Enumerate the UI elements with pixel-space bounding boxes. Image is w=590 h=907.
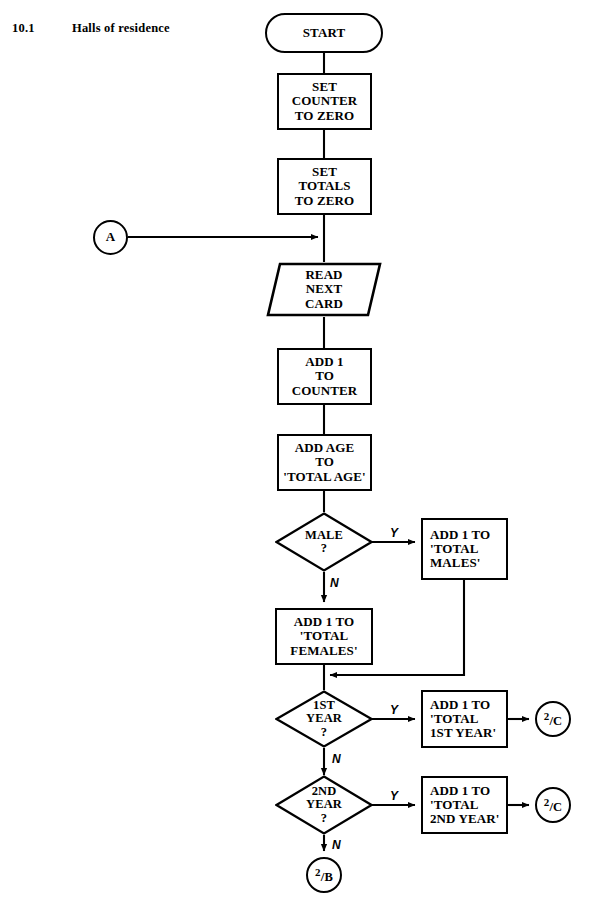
connector-a-label: A	[95, 230, 126, 244]
connector-b: 2/B	[306, 857, 342, 893]
node-first-year-line1: 1ST	[275, 699, 373, 713]
node-total-males-line1: ADD 1 TO	[430, 528, 506, 542]
node-set-totals-line1: SET	[279, 165, 370, 179]
node-male-line1: MALE	[275, 529, 373, 543]
node-second-year-line3: ?	[275, 812, 373, 826]
node-total-males-line3: MALES'	[430, 556, 506, 570]
node-total-males: ADD 1 TO 'TOTAL MALES'	[421, 518, 508, 580]
node-total-females-line2: 'TOTAL	[277, 629, 371, 643]
node-second-year-decision: 2ND YEAR ?	[275, 775, 373, 835]
node-add-counter-line2: TO	[279, 369, 370, 383]
connector-c-second-label: 2/C	[544, 797, 562, 814]
node-set-counter-line3: TO ZERO	[279, 109, 370, 123]
branch-label-male-yes: Y	[390, 526, 398, 540]
node-set-totals-line2: TOTALS	[279, 179, 370, 193]
node-first-year-line2: YEAR	[275, 712, 373, 726]
branch-label-male-no: N	[330, 576, 339, 590]
node-second-year-line2: YEAR	[275, 798, 373, 812]
node-total-first-year: ADD 1 TO 'TOTAL 1ST YEAR'	[421, 690, 508, 748]
node-second-year-line1: 2ND	[275, 785, 373, 799]
connector-c-first-label: 2/C	[544, 711, 562, 728]
section-title: Halls of residence	[72, 21, 170, 36]
node-total-first-year-line2: 'TOTAL	[430, 712, 506, 726]
node-read-card-line3: CARD	[266, 297, 382, 311]
connector-a: A	[93, 220, 128, 255]
node-set-counter-line1: SET	[279, 80, 370, 94]
node-total-second-year: ADD 1 TO 'TOTAL 2ND YEAR'	[421, 776, 508, 834]
node-set-totals: SET TOTALS TO ZERO	[277, 158, 372, 215]
node-total-females: ADD 1 TO 'TOTAL FEMALES'	[275, 608, 373, 665]
node-total-second-year-line3: 2ND YEAR'	[430, 812, 506, 826]
connector-b-denominator: B	[324, 870, 332, 884]
connector-c-second-denominator: C	[553, 800, 562, 814]
node-set-counter-line2: COUNTER	[279, 94, 370, 108]
node-male-decision: MALE ?	[275, 512, 373, 572]
node-total-second-year-line2: 'TOTAL	[430, 798, 506, 812]
node-set-counter: SET COUNTER TO ZERO	[277, 73, 372, 130]
branch-label-second-year-no: N	[332, 838, 341, 852]
connector-b-label: 2/B	[315, 867, 333, 884]
node-add-counter-line3: COUNTER	[279, 384, 370, 398]
node-total-first-year-line1: ADD 1 TO	[430, 698, 506, 712]
node-add-age-line3: 'TOTAL AGE'	[279, 470, 370, 484]
branch-label-second-year-yes: Y	[390, 789, 398, 803]
node-set-totals-line3: TO ZERO	[279, 194, 370, 208]
node-start: START	[265, 13, 383, 53]
node-add-age-line2: TO	[279, 455, 370, 469]
node-read-card-line2: NEXT	[266, 282, 382, 296]
connector-c-first: 2/C	[535, 701, 571, 737]
node-read-card-line1: READ	[266, 268, 382, 282]
branch-label-first-year-no: N	[332, 752, 341, 766]
node-add-age-line1: ADD AGE	[279, 441, 370, 455]
node-total-females-line3: FEMALES'	[277, 644, 371, 658]
node-add-counter-line1: ADD 1	[279, 355, 370, 369]
node-read-next-card: READ NEXT CARD	[266, 262, 382, 317]
node-total-females-line1: ADD 1 TO	[277, 615, 371, 629]
node-first-year-line3: ?	[275, 726, 373, 740]
node-start-label: START	[267, 26, 381, 40]
section-number: 10.1	[12, 21, 35, 36]
branch-label-first-year-yes: Y	[390, 703, 398, 717]
node-male-line2: ?	[275, 542, 373, 556]
node-add-age: ADD AGE TO 'TOTAL AGE'	[277, 434, 372, 491]
node-total-second-year-line1: ADD 1 TO	[430, 784, 506, 798]
node-add-counter: ADD 1 TO COUNTER	[277, 348, 372, 405]
node-first-year-decision: 1ST YEAR ?	[275, 690, 373, 748]
connector-c-second: 2/C	[535, 787, 571, 823]
node-total-first-year-line3: 1ST YEAR'	[430, 726, 506, 740]
flowchart-page: 10.1 Halls of residence	[0, 0, 590, 907]
node-total-males-line2: 'TOTAL	[430, 542, 506, 556]
connector-c-first-denominator: C	[553, 714, 562, 728]
